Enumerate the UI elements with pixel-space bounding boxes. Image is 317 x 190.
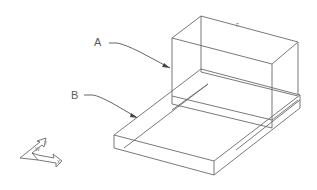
leader-b [84, 95, 138, 118]
edge-mark: F [236, 22, 239, 28]
triad-label-w: W [35, 146, 40, 152]
wireframe-svg: F W [0, 0, 317, 190]
leader-a [109, 43, 170, 68]
axis-triad-icon: W Y X [20, 138, 62, 167]
label-b: B [71, 90, 78, 101]
label-a: A [94, 37, 101, 48]
triad-label-y: Y [44, 140, 48, 146]
